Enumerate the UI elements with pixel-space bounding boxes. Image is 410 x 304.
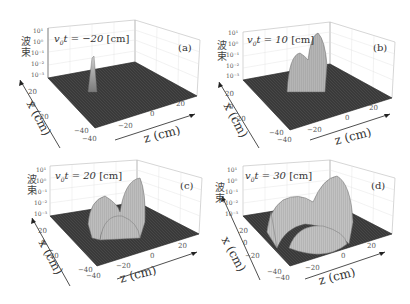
ztick-dir: 0 [341,252,345,260]
ztick: 10⁻³ [225,210,238,217]
ztick: 10⁻³ [226,72,239,79]
ztick: 10⁻² [225,199,238,206]
panel-a: 波束 10¹ 10⁰ 10⁻¹ 10⁻² 10⁻³ v0t = −20 [cm]… [0,0,205,152]
ztick: 10⁰ [227,177,237,184]
ztick-dir: −40 [277,136,292,144]
ztick: 10¹ [228,29,238,36]
ztick-dir: 20 [369,104,378,112]
ztick: 10⁰ [228,40,238,47]
ztick-dir: 20 [176,100,185,108]
ztick: 10⁻³ [34,210,47,217]
zaxis-label: 波束 [211,182,226,204]
xtick: 0 [243,239,247,247]
ztick-dir: −40 [86,272,101,280]
ztick-dir: −20 [307,126,322,134]
ztick: 10⁻¹ [225,188,238,195]
ztick-dir: 0 [150,110,154,118]
panel-tag: (c) [180,180,193,191]
ztick: 10⁻¹ [31,49,44,56]
ztick: 10¹ [227,166,237,173]
panel-c: 波束 10¹ 10⁰ 10⁻¹ 10⁻² 10⁻³ v0t = 20 [cm] … [0,152,205,304]
ztick-dir: −20 [305,264,320,272]
ztick: 10⁻¹ [226,51,239,58]
ztick: 10⁻² [31,60,44,67]
ztick-dir: 20 [178,242,187,250]
ztick-dir: 0 [345,114,349,122]
ztick-dir: 0 [150,252,154,260]
ztick: 10⁻³ [31,71,44,78]
ztick-dir: −40 [275,274,290,282]
panel-tag: (b) [373,42,387,53]
xtick: −40 [74,127,89,135]
ztick-dir: 20 [367,242,376,250]
panel-tag: (d) [371,180,385,191]
xtick: 20 [38,227,47,235]
ztick: 10⁰ [33,38,43,45]
panel-title: v0t = 10 [cm] [247,34,314,47]
ztick: 10⁻² [226,62,239,69]
xtick: 20 [225,90,234,98]
xtick: 20 [28,88,37,96]
ztick: 10⁰ [36,177,46,184]
zaxis-label: 波束 [17,36,32,58]
ztick: 10¹ [33,27,43,34]
ztick: 10⁻¹ [34,188,47,195]
panel-title: v0t = −20 [cm] [54,33,129,46]
panel-b: 波束 10¹ 10⁰ 10⁻¹ 10⁻² 10⁻³ v0t = 10 [cm] … [205,0,410,152]
xtick: −20 [245,252,260,260]
ztick: 10¹ [36,166,46,173]
xtick: 20 [239,227,248,235]
panel-tag: (a) [178,42,192,53]
panel-title: v0t = 20 [cm] [55,170,122,183]
ztick: 10⁻² [34,199,47,206]
panel-d: 波束 10¹ 10⁰ 10⁻¹ 10⁻² 10⁻³ v0t = 30 [cm] … [205,152,410,304]
panel-title: v0t = 30 [cm] [245,170,312,183]
ztick-dir: −20 [118,122,133,130]
ztick-dir: −40 [82,135,97,143]
